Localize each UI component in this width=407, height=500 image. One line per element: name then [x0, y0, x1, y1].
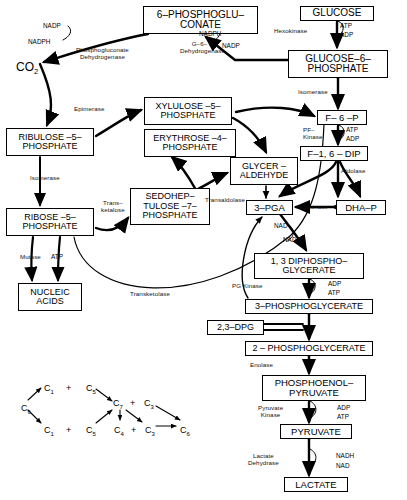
carbon-plus-3: + [130, 398, 135, 408]
cofactor-label-atp-pf-kinase: ATP [346, 126, 358, 133]
carbon-plus-4: + [131, 425, 136, 435]
carbon-subscript: 1 [51, 431, 54, 437]
cofactor-label-nadh-gapdh: NADH [283, 236, 301, 243]
carbon-plus-1: + [66, 383, 71, 393]
enzyme-label-transketolase-main: Transketolase [130, 290, 170, 297]
carbon-node-c1-upper: C1 [44, 383, 54, 395]
cofactor-label-atp-ribose: ATP [51, 253, 63, 260]
carbon-node-c5-upper: C5 [86, 383, 96, 395]
cofactor-label-adp-pyruvate-kinase: ADP [337, 404, 350, 411]
cofactor-label-nad-ldh: NAD [336, 462, 350, 469]
metabolite-box-f-6-p[interactable]: F– 6 –P [317, 110, 367, 125]
enzyme-label-lactate-dehydrase: Lactate Dehydrase [248, 452, 279, 466]
enzyme-label-isomerase-g6p: Isomerase [298, 88, 328, 95]
metabolite-box-2-phosphoglycerate[interactable]: 2 – PHOSPHOGLYCERATE [245, 341, 373, 356]
pathway-diagram-canvas: GLUCOSE GLUCOSE–6– PHOSPHATE 6–PHOSPHOGL… [0, 0, 407, 500]
metabolite-label-co2: CO2 [16, 60, 38, 76]
carbon-node-c7: C7 [113, 398, 123, 410]
metabolite-box-glucose[interactable]: GLUCOSE [300, 6, 374, 21]
cofactor-label-nadp-top: NADP [43, 22, 61, 29]
carbon-node-c3-lower: C3 [145, 425, 155, 437]
carbon-node-c3-upper: C3 [144, 398, 154, 410]
enzyme-label-transaldolase: Transaldolase [205, 196, 245, 203]
cofactor-label-atp-pg-kinase: ATP [328, 289, 340, 296]
cofactor-label-atp-pyruvate-kinase: ATP [337, 413, 349, 420]
cofactor-label-adp-pg-kinase: ADP [328, 280, 341, 287]
co2-subscript: 2 [34, 67, 38, 76]
metabolite-box-2-3-dpg[interactable]: 2,3–DPG [207, 320, 264, 335]
carbon-node-c6-left: C6 [21, 403, 31, 415]
metabolite-box-glyceraldehyde[interactable]: GLYCER – ALDEHYDE [230, 157, 298, 185]
enzyme-label-isomerase-ribose: Isomerase [30, 174, 60, 181]
metabolite-box-3-phosphoglycerate[interactable]: 3–PHOSPHOGLYCERATE [245, 299, 373, 314]
carbon-subscript: 5 [93, 431, 96, 437]
enzyme-label-phosphogluconate-dehydrogenase: Phosphogluconate Dehydrogenase [76, 46, 129, 60]
cofactor-label-nadp-right: NADP [222, 42, 240, 49]
metabolite-box-phosphoenolpyruvate[interactable]: PHOSPHOENOL– PYRUVATE [262, 375, 366, 401]
enzyme-label-transketolase-sedoheptulose: Trans– ketalose [101, 199, 125, 213]
enzyme-label-mutase: Mutase [20, 253, 41, 260]
metabolite-box-lactate[interactable]: LACTATE [284, 477, 348, 492]
metabolite-box-ribose-5-phosphate[interactable]: RIBOSE –5– PHOSPHATE [6, 208, 94, 236]
carbon-subscript: 6 [28, 409, 31, 415]
enzyme-label-pg-kinase: PG Kinase [232, 282, 262, 289]
enzyme-label-hexokinase: Hexokinase [274, 27, 307, 34]
cofactor-label-atp-hexokinase: ATP [340, 22, 352, 29]
cofactor-label-adp-pf-kinase: ADP [346, 135, 359, 142]
carbon-node-c4: C4 [114, 425, 124, 437]
carbon-subscript: 7 [120, 404, 123, 410]
cofactor-label-nadph-right: NADPH [199, 30, 221, 37]
metabolite-box-glucose-6-phosphate[interactable]: GLUCOSE–6– PHOSPHATE [288, 50, 388, 78]
metabolite-box-xylulose-5-phosphate[interactable]: XYLULOSE –5– PHOSPHATE [144, 97, 232, 125]
carbon-subscript: 5 [93, 389, 96, 395]
metabolite-box-f-1-6-dip[interactable]: F–1, 6 – DIP [300, 146, 368, 161]
metabolite-box-pyruvate[interactable]: PYRUVATE [280, 424, 352, 439]
metabolite-box-sedoheptulose-7-phosphate[interactable]: SEDOHEP– TULOSE –7– PHOSPHATE [130, 188, 210, 225]
cofactor-label-nad-gapdh: NAD [274, 222, 288, 229]
metabolite-box-dha-p[interactable]: DHA–P [336, 200, 386, 215]
metabolite-box-nucleic-acids[interactable]: NUCLEIC ACIDS [18, 283, 82, 311]
metabolite-box-3-pga[interactable]: 3–PGA [246, 200, 293, 215]
co2-text: CO [16, 60, 34, 74]
carbon-node-c5-lower: C5 [86, 425, 96, 437]
enzyme-label-pyruvate-kinase: Pyruvate Kinase [258, 404, 283, 418]
metabolite-box-erythrose-4-phosphate[interactable]: ERYTHROSE –4– PHOSPHATE [144, 129, 236, 157]
carbon-plus-2: + [66, 425, 71, 435]
enzyme-label-aldolase: Aldolase [341, 167, 366, 174]
cofactor-label-adp-hexokinase: ADP [340, 31, 353, 38]
enzyme-label-isomerase-dhap: Isomerase [298, 203, 328, 210]
enzyme-label-pf-kinase: PF– Kinase [303, 126, 323, 140]
metabolite-box-ribulose-5-phosphate[interactable]: RIBULOSE –5– PHOSPHATE [6, 128, 94, 156]
enzyme-label-g6p-dehydrogenase: G–6– P Dehydrogenase [180, 40, 225, 54]
carbon-node-c6-right: C6 [180, 425, 190, 437]
carbon-subscript: 1 [51, 389, 54, 395]
metabolite-box-1-3-diphosphoglycerate[interactable]: 1, 3 DIPHOSPHO– GLYCERATE [254, 253, 364, 279]
enzyme-label-enolase: Enolase [250, 361, 273, 368]
carbon-node-c1-lower: C1 [44, 425, 54, 437]
carbon-subscript: 3 [151, 404, 154, 410]
carbon-subscript: 3 [152, 431, 155, 437]
carbon-subscript: 6 [187, 431, 190, 437]
carbon-subscript: 4 [121, 431, 124, 437]
enzyme-label-epimerase: Epimerase [74, 105, 104, 112]
cofactor-label-nadh-ldh: NADH [336, 452, 354, 459]
cofactor-label-nadph-top: NADPH [28, 38, 50, 45]
